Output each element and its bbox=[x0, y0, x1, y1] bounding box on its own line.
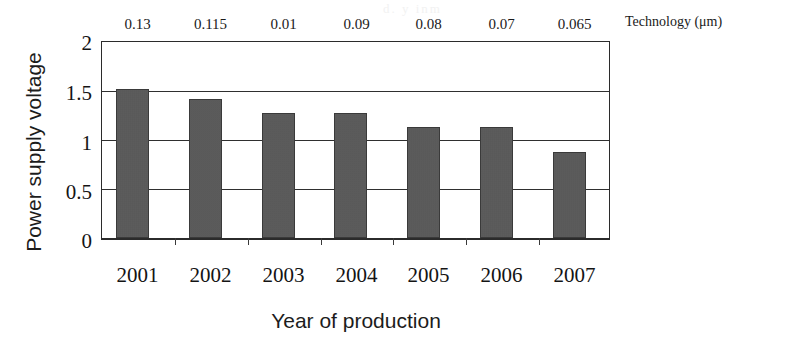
technology-tick-label: 0.115 bbox=[174, 17, 247, 32]
y-tick-label: 1 bbox=[48, 133, 92, 154]
x-axis-tick bbox=[393, 238, 394, 245]
technology-tick-label: 0.08 bbox=[392, 17, 465, 32]
bar-2002 bbox=[189, 99, 222, 238]
x-axis-tick bbox=[466, 238, 467, 245]
bars-layer bbox=[102, 42, 609, 238]
x-axis-title: Year of production bbox=[101, 309, 611, 333]
bar-2003 bbox=[262, 113, 295, 238]
bar-2005 bbox=[407, 127, 440, 238]
technology-tick-label: 0.07 bbox=[465, 17, 538, 32]
x-axis-tick bbox=[321, 238, 322, 245]
y-tick-label: 0.5 bbox=[48, 182, 92, 203]
x-tick-label: 2007 bbox=[538, 265, 611, 286]
y-tick-label: 2 bbox=[48, 33, 92, 54]
x-axis-tick bbox=[175, 238, 176, 245]
x-tick-label: 2002 bbox=[174, 265, 247, 286]
x-tick-label: 2004 bbox=[320, 265, 393, 286]
bar-2006 bbox=[480, 127, 513, 238]
bar-2004 bbox=[334, 113, 367, 238]
x-axis-tick bbox=[539, 238, 540, 245]
secondary-axis-title: Technology (μm) bbox=[625, 14, 722, 30]
bar-2007 bbox=[553, 152, 586, 238]
technology-tick-label: 0.13 bbox=[101, 17, 174, 32]
bar-chart-figure: d. y inm Power supply voltage 2 1.5 1 0.… bbox=[0, 0, 787, 352]
x-tick-label: 2001 bbox=[101, 265, 174, 286]
x-tick-label: 2006 bbox=[465, 265, 538, 286]
y-tick-label: 0 bbox=[48, 231, 92, 252]
plot-area bbox=[101, 41, 610, 240]
x-tick-label: 2005 bbox=[392, 265, 465, 286]
bar-2001 bbox=[116, 89, 149, 238]
y-tick-label: 1.5 bbox=[48, 83, 92, 104]
y-axis-tick-labels: 2 1.5 1 0.5 0 bbox=[42, 0, 92, 352]
x-axis-tick bbox=[248, 238, 249, 245]
x-tick-label: 2003 bbox=[247, 265, 320, 286]
technology-tick-labels: 0.13 0.115 0.01 0.09 0.08 0.07 0.065 bbox=[101, 17, 610, 37]
x-axis-tick-labels: 2001 2002 2003 2004 2005 2006 2007 bbox=[101, 265, 610, 295]
technology-tick-label: 0.09 bbox=[320, 17, 393, 32]
scan-artifact: d. y inm bbox=[383, 1, 528, 15]
technology-tick-label: 0.01 bbox=[247, 17, 320, 32]
technology-tick-label: 0.065 bbox=[538, 17, 611, 32]
